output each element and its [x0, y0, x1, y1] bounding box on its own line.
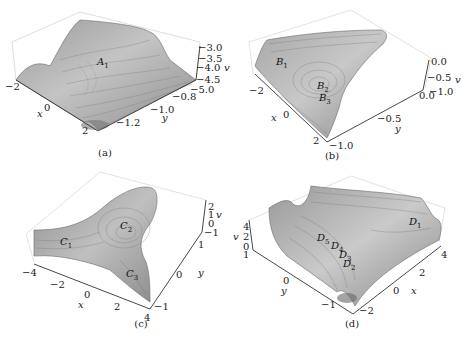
- x-tick: 2: [419, 268, 425, 278]
- y-axis-label: y: [281, 286, 287, 296]
- v-tick: −1: [204, 228, 219, 238]
- v-tick: −4.0: [196, 63, 220, 73]
- x-tick: 2: [114, 302, 120, 312]
- y-tick: 0: [176, 270, 182, 280]
- x-tick: 0: [84, 290, 90, 300]
- panel-caption-c: (c): [126, 318, 156, 329]
- panel-b: B1 B2 B3 −2 0 x 2 0.0 −0.5 y −1.0 0.0 −0…: [231, 0, 463, 170]
- panel-a: A1 −2 0 x 2 −0.8 −1.0 y −1.2 −3.0 −3.5 −…: [0, 0, 231, 170]
- x-axis-label: x: [37, 109, 43, 119]
- critical-point-D5: D5: [317, 232, 330, 246]
- critical-point-B3: B3: [319, 92, 331, 106]
- y-axis-label: y: [162, 113, 168, 123]
- panel-caption-b: (b): [317, 150, 347, 161]
- critical-point-B1: B1: [276, 56, 288, 70]
- x-axis-label: x: [411, 286, 417, 296]
- v-axis-label: v: [233, 232, 239, 242]
- v-tick: 0: [243, 242, 249, 252]
- y-tick: −1: [321, 300, 336, 310]
- critical-point-D2: D2: [343, 258, 356, 272]
- critical-point-C1: C1: [60, 236, 72, 250]
- critical-point-C3: C3: [126, 268, 138, 282]
- x-tick: −2: [249, 86, 264, 96]
- x-tick: 4: [441, 250, 447, 260]
- v-tick: −0.5: [427, 73, 451, 83]
- critical-point-A1: A1: [97, 56, 109, 70]
- x-tick: −2: [50, 280, 65, 290]
- panel-c: C1 C2 C3 −4 −2 0 x 2 4 1 0 y −1 2 1 v 0 …: [0, 170, 231, 335]
- x-tick: 0: [44, 103, 50, 113]
- v-axis-label: v: [455, 75, 461, 85]
- v-tick: 0.0: [431, 57, 447, 67]
- x-axis-label: x: [271, 113, 277, 123]
- x-tick: 0: [393, 286, 399, 296]
- y-axis-label: y: [395, 124, 401, 134]
- x-tick: −2: [359, 306, 374, 316]
- x-tick: −4: [22, 268, 37, 278]
- x-axis-label: x: [78, 300, 84, 310]
- x-tick: 2: [82, 126, 88, 136]
- y-tick: −1: [154, 302, 169, 312]
- v-tick: −3.0: [198, 43, 222, 53]
- x-tick: −2: [5, 82, 20, 92]
- v-axis-label: v: [216, 210, 222, 220]
- v-tick: −1.0: [429, 87, 453, 97]
- y-tick: 1: [198, 240, 204, 250]
- v-tick: −5.0: [190, 85, 214, 95]
- panel-caption-d: (d): [337, 318, 367, 329]
- v-axis-label: v: [224, 63, 230, 73]
- critical-point-D1: D1: [409, 216, 422, 230]
- panel-d: D1 D5 D4 D3 D2 4 2 0 x −2 1 0 y −1 4 v 2…: [231, 170, 463, 335]
- x-tick: 0: [283, 110, 289, 120]
- panel-caption-a: (a): [90, 147, 120, 158]
- critical-point-C2: C2: [120, 220, 132, 234]
- x-tick: 2: [313, 136, 319, 146]
- y-axis-label: y: [198, 268, 204, 278]
- y-tick: −1.2: [116, 118, 140, 128]
